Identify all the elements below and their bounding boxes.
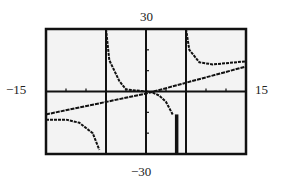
graph-window — [0, 0, 283, 186]
